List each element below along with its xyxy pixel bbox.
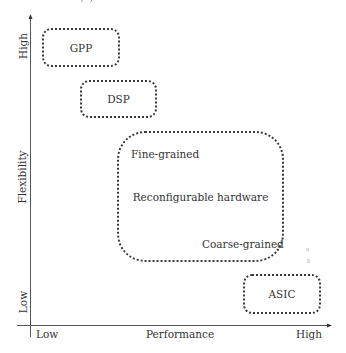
asic-label: ASIC [269,288,296,300]
gpp-label: GPP [70,42,93,54]
y-axis-low-label: Low [17,287,29,317]
y-axis-arrow-icon [29,14,33,19]
dsp-box: DSP [80,80,157,118]
dsp-label: DSP [107,93,130,105]
y-axis-title: Flexibility [16,149,28,205]
x-axis-low-label: Low [36,328,58,340]
coarse-grained-label: Coarse-grained [202,238,284,250]
x-axis-arrow-icon [327,324,332,328]
gpp-box: GPP [42,28,120,67]
x-axis-title: Performance [146,328,214,340]
x-axis-high-label: High [296,328,322,340]
asic-box: ASIC [243,274,321,314]
y-axis-high-label: High [17,31,29,61]
diagram-canvas: High Flexibility Low Low Performance Hig… [0,0,346,353]
reconfigurable-hardware-label: Reconfigurable hardware [133,191,269,203]
fine-grained-label: Fine-grained [131,148,199,160]
